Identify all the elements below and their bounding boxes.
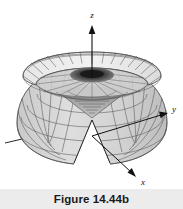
x-axis-label: x [140,177,145,187]
figure-panel: z y x Figure 14.44b [0,0,183,209]
z-axis-label: z [89,10,94,20]
y-axis-label: y [171,104,176,114]
solid-of-revolution-diagram: z y x [0,0,183,189]
figure-graphic-area: z y x [0,0,183,189]
figure-caption-text: Figure 14.44b [54,193,129,205]
figure-caption-bar: Figure 14.44b [0,189,183,209]
